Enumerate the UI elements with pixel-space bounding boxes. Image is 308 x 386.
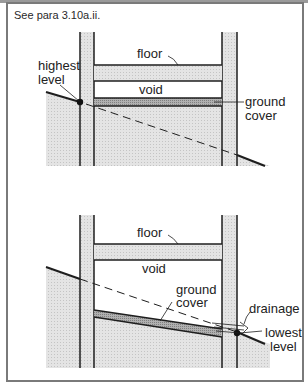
bottom-diagram: floor void ground cover drainage lowest … (46, 215, 302, 368)
floor (94, 65, 222, 81)
highest-level-label: highest (38, 58, 80, 73)
void-label: void (142, 261, 166, 276)
right-wall (222, 215, 237, 368)
floor-label: floor (137, 225, 163, 240)
ground-cover-label-2: cover (176, 295, 208, 310)
left-wall (80, 215, 94, 368)
ground-cover-label-2: cover (245, 108, 277, 123)
lowest-level-label: lowest (265, 325, 302, 340)
ground-fill (46, 92, 80, 166)
drainage-label: drainage (249, 301, 300, 316)
void-label: void (139, 82, 163, 97)
right-wall (222, 32, 237, 166)
top-diagram: highest level floor void ground cover (38, 32, 285, 166)
floor-label: floor (137, 46, 163, 61)
left-wall (80, 32, 94, 166)
ground-cover-label: ground (245, 94, 285, 109)
highest-level-label-2: level (38, 72, 65, 87)
floor (94, 244, 222, 260)
subfloor-ventilation-diagram: highest level floor void ground cover (0, 0, 308, 386)
lowest-level-label-2: level (270, 339, 297, 354)
ground-cover (94, 98, 222, 106)
underfloor-ground-fill (94, 106, 222, 166)
ground-fill (46, 267, 80, 368)
